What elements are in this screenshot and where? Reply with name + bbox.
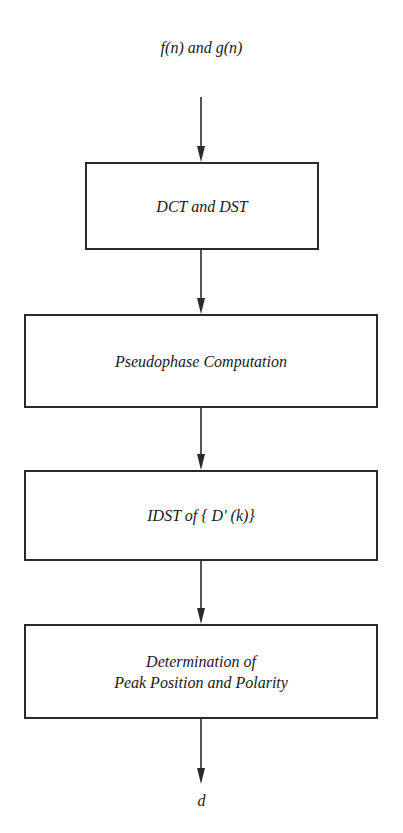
step-peak-line-2: Peak Position and Polarity <box>114 672 288 693</box>
arrow-input-to-dct <box>197 97 205 162</box>
step-peak-label: Determination of Peak Position and Polar… <box>114 651 288 693</box>
input-label: f(n) and g(n) <box>0 38 403 58</box>
step-idst: IDST of { D' (k)} <box>24 470 378 561</box>
step-dct-dst: DCT and DST <box>85 162 319 250</box>
step-dct-dst-label: DCT and DST <box>156 196 247 217</box>
output-label: d <box>0 791 403 811</box>
step-idst-label: IDST of { D' (k)} <box>147 505 254 526</box>
arrow-peak-to-output <box>197 719 205 784</box>
flowchart-canvas: f(n) and g(n) DCT and DST Pseudophase Co… <box>0 0 403 833</box>
step-peak-determination: Determination of Peak Position and Polar… <box>24 624 378 719</box>
arrow-dct-to-pseudophase <box>197 250 205 314</box>
arrow-pseudophase-to-idst <box>197 408 205 470</box>
step-pseudophase-computation: Pseudophase Computation <box>24 314 378 408</box>
step-peak-line-1: Determination of <box>114 651 288 672</box>
arrow-idst-to-peak <box>197 561 205 624</box>
step-pseudophase-label: Pseudophase Computation <box>115 351 287 372</box>
